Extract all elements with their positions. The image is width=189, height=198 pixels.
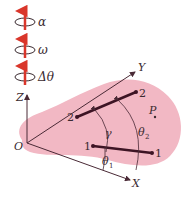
svg-text:1: 1 [109,162,113,170]
z-axis-label: Z [15,91,24,104]
alpha-label: α [38,15,46,29]
delta-theta-label: Δθ [37,70,55,84]
svg-text:θ: θ [102,155,109,168]
alpha-icon [15,11,35,30]
gamma-label: γ [105,127,112,140]
bar-2-end-label: 2 [139,87,146,100]
y-axis-label: Y [138,61,147,74]
bar-1-start-label: 1 [84,140,91,153]
origin-label: O [14,140,23,153]
bar-1-end-label: 1 [155,147,162,160]
bar-1-end-point [150,151,154,155]
x-axis-label: X [131,177,141,190]
delta-theta-icon [15,66,35,85]
bar-2-start-point [75,115,79,119]
bar-2-start-label: 2 [67,111,74,124]
svg-text:2: 2 [145,133,149,141]
rigid-body-rotation-diagram: α ω Δθ Z Y X O 2 2 1 1 γ θ 2 θ 1 P [0,0,189,198]
svg-text:θ: θ [138,126,145,139]
point-p [154,116,156,118]
omega-icon [15,39,35,58]
bar-2-end-point [134,90,138,94]
bar-1-start-point [91,144,95,148]
point-p-label: P [148,104,157,117]
omega-label: ω [38,43,48,57]
